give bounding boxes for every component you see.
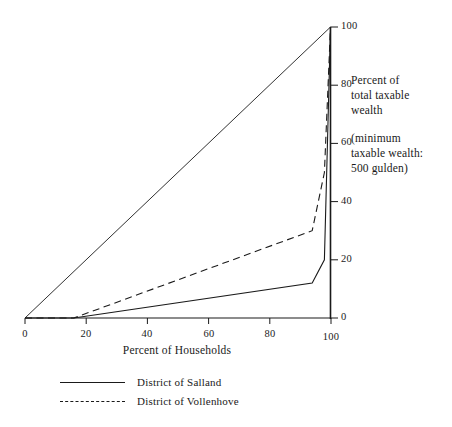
x-tick-label-40: 40 <box>141 328 152 339</box>
x-tick-label-100: 100 <box>323 331 340 342</box>
y-axis-description: Percent of total taxable wealth <box>351 73 409 119</box>
y-axis-description-line-2: total taxable <box>351 88 409 103</box>
minimum-wealth-note-line-2: taxable wealth: <box>351 146 423 161</box>
x-axis-title: Percent of Households <box>123 344 231 356</box>
y-axis-ticks <box>331 27 339 318</box>
chart-plot-area <box>0 0 452 427</box>
legend-line-swatch-solid-icon <box>60 377 125 387</box>
equality-line <box>25 27 331 318</box>
y-tick-label-100: 100 <box>341 20 358 31</box>
minimum-wealth-note-line-3: 500 gulden) <box>351 161 423 176</box>
minimum-wealth-note-line-1: (minimum <box>351 131 423 146</box>
y-tick-label-40: 40 <box>341 195 352 206</box>
lorenz-curve-figure: 100 80 60 40 20 0 0 20 40 60 80 100 Perc… <box>0 0 452 427</box>
x-axis-ticks <box>25 318 331 324</box>
minimum-wealth-note: (minimum taxable wealth: 500 gulden) <box>351 131 423 177</box>
y-axis-description-line-1: Percent of <box>351 73 409 88</box>
legend-item-salland: District of Salland <box>60 372 239 391</box>
x-tick-label-80: 80 <box>264 328 275 339</box>
y-tick-label-20: 20 <box>341 253 352 264</box>
y-axis-description-line-3: wealth <box>351 103 409 118</box>
x-tick-label-0: 0 <box>22 328 28 339</box>
y-tick-label-0: 0 <box>341 311 347 322</box>
legend-item-vollenhove: District of Vollenhove <box>60 391 239 410</box>
x-tick-label-60: 60 <box>203 328 214 339</box>
legend-label-salland: District of Salland <box>137 376 221 388</box>
chart-legend: District of Salland District of Vollenho… <box>60 372 239 410</box>
legend-label-vollenhove: District of Vollenhove <box>137 395 239 407</box>
legend-line-swatch-dashed-icon <box>60 396 125 406</box>
x-tick-label-20: 20 <box>80 328 91 339</box>
